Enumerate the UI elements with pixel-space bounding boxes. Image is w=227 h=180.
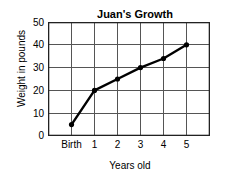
- growth-line-chart: Juan's Growth Weight in pounds 50 40 30 …: [0, 0, 227, 180]
- y-tick-label-50: 50: [24, 18, 44, 28]
- plot-svg: [48, 22, 210, 136]
- x-tick-label-1: 1: [92, 139, 98, 150]
- x-tick-label-5: 5: [184, 139, 190, 150]
- x-axis-title: Years old: [55, 160, 205, 171]
- x-axis-tick-labels: Birth 1 2 3 4 5: [0, 139, 227, 155]
- x-tick-label-3: 3: [138, 139, 144, 150]
- y-tick-label-10: 10: [24, 109, 44, 119]
- data-point-1: [92, 88, 97, 93]
- plot-area: [48, 22, 210, 136]
- data-point-4: [161, 56, 166, 61]
- data-point-birth: [69, 122, 74, 127]
- data-point-3: [138, 65, 143, 70]
- chart-title: Juan's Growth: [60, 8, 210, 20]
- y-tick-label-20: 20: [24, 86, 44, 96]
- horizontal-gridlines: [48, 23, 210, 136]
- data-line: [72, 45, 187, 125]
- x-tick-label-2: 2: [115, 139, 121, 150]
- vertical-gridlines: [49, 22, 210, 136]
- data-point-2: [115, 76, 120, 81]
- plot-frame: [49, 23, 210, 136]
- y-tick-label-40: 40: [24, 40, 44, 50]
- y-tick-label-30: 30: [24, 63, 44, 73]
- x-tick-label-birth: Birth: [61, 139, 82, 150]
- x-tick-label-4: 4: [161, 139, 167, 150]
- data-point-5: [184, 42, 189, 47]
